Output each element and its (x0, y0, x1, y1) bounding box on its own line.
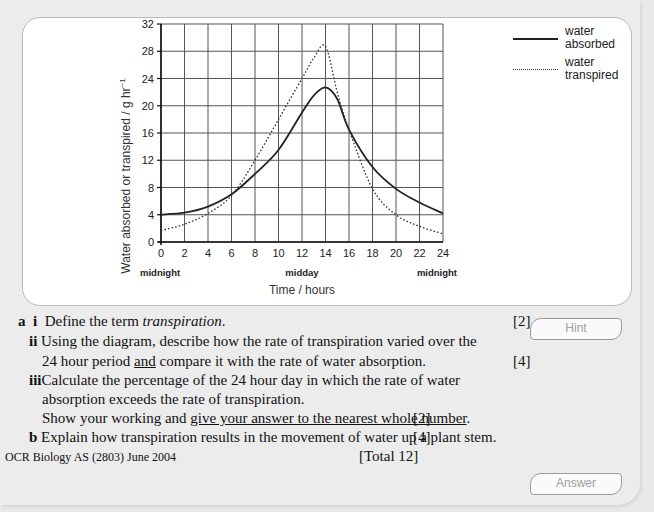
question-a-iii-line3: Show your working and give your answer t… (42, 409, 470, 427)
question-text: a i Define the term transpiration. [2] i… (0, 0, 654, 512)
source-citation: OCR Biology AS (2803) June 2004 (5, 448, 176, 466)
question-a-iii-line1: iiiCalculate the percentage of the 24 ho… (29, 371, 460, 389)
marks-a-ii: [4] (513, 352, 531, 370)
question-a-ii-line2: 24 hour period and compare it with the r… (42, 352, 426, 370)
marks-a-iii: [2] (413, 409, 431, 427)
question-a-i: a i Define the term transpiration. (18, 312, 225, 330)
answer-button[interactable]: Answer (530, 473, 622, 495)
question-a-ii-line1: ii Using the diagram, describe how the r… (29, 332, 477, 350)
marks-b: [4] (413, 428, 431, 446)
marks-a-i: [2] (513, 312, 531, 330)
hint-button[interactable]: Hint (530, 318, 622, 340)
question-a-iii-line2: absorption exceeds the rate of transpira… (42, 390, 304, 408)
total-marks: [Total 12] (359, 447, 418, 465)
